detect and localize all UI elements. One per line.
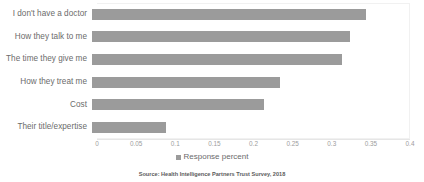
chart-row: Their title/expertise — [0, 116, 424, 139]
x-tick-label: 0.05 — [130, 141, 142, 147]
bar-series-response-percent[interactable] — [92, 77, 280, 88]
bar-series-response-percent[interactable] — [92, 54, 342, 65]
x-tick-label: 0 — [95, 141, 99, 147]
category-label: Their title/expertise — [0, 123, 92, 131]
category-label: How they treat me — [0, 78, 92, 86]
x-tick-label: 0.1 — [171, 141, 180, 147]
bar-series-response-percent[interactable] — [92, 99, 264, 110]
chart-legend: Response percent — [0, 153, 424, 161]
bar-rows: I don't have a doctor How they talk to m… — [0, 3, 424, 139]
x-tick-label: 0.35 — [365, 141, 377, 147]
bar-track — [92, 71, 405, 94]
x-axis-tick-labels: 0 0.05 0.1 0.15 0.2 0.25 0.3 0.35 0.4 — [97, 141, 410, 153]
category-label: How they talk to me — [0, 33, 92, 41]
category-label: Cost — [0, 101, 92, 109]
bar-chart: I don't have a doctor How they talk to m… — [0, 0, 424, 182]
bar-track — [92, 93, 405, 116]
x-tick-label: 0.25 — [286, 141, 298, 147]
category-label: I don't have a doctor — [0, 10, 92, 18]
x-tick-label: 0.3 — [327, 141, 336, 147]
bar-series-response-percent[interactable] — [92, 9, 366, 20]
source-note: Source: Health Intelligence Partners Tru… — [0, 172, 424, 178]
bar-track — [92, 48, 405, 71]
bar-track — [92, 26, 405, 49]
x-tick-label: 0.4 — [406, 141, 415, 147]
category-label: The time they give me — [0, 55, 92, 63]
chart-row: Cost — [0, 93, 424, 116]
chart-row: How they treat me — [0, 71, 424, 94]
bar-track — [92, 116, 405, 139]
chart-row: I don't have a doctor — [0, 3, 424, 26]
bar-track — [92, 3, 405, 26]
x-tick-label: 0.2 — [249, 141, 258, 147]
legend-entry-label: Response percent — [184, 153, 249, 161]
chart-row: The time they give me — [0, 48, 424, 71]
bar-series-response-percent[interactable] — [92, 31, 350, 42]
x-tick-label: 0.15 — [208, 141, 220, 147]
bar-series-response-percent[interactable] — [92, 122, 166, 133]
chart-row: How they talk to me — [0, 26, 424, 49]
legend-swatch-icon — [176, 155, 181, 160]
